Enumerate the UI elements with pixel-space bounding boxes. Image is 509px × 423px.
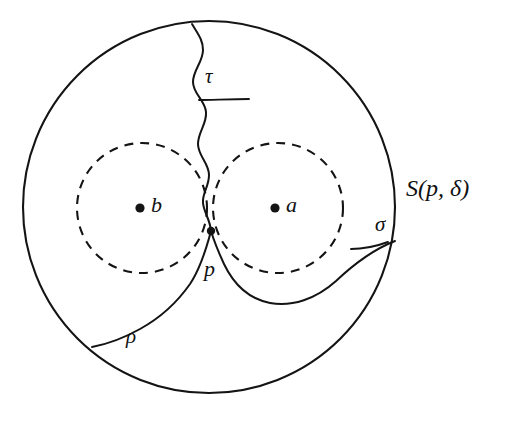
arc-sigma-leader-line (351, 242, 388, 249)
figure-root: b a p τ σ ρ S(p, δ) (0, 0, 509, 423)
arc-tau-path (192, 24, 211, 231)
arc-label-rho: ρ (126, 326, 136, 347)
point-label-a: a (286, 194, 297, 216)
point-label-b: b (151, 194, 162, 216)
point-p-dot (207, 227, 215, 235)
arc-label-sigma: σ (375, 214, 385, 235)
arc-rho-path (92, 231, 211, 347)
arc-tau-leader-line (199, 99, 249, 100)
point-label-p: p (204, 258, 215, 280)
outer-ball-label: S(p, δ) (406, 176, 469, 200)
arc-label-tau: τ (205, 66, 213, 87)
point-a-dot (270, 203, 279, 212)
point-b-dot (135, 203, 144, 212)
topology-diagram-canvas (0, 0, 509, 423)
arc-sigma-path (211, 231, 395, 304)
